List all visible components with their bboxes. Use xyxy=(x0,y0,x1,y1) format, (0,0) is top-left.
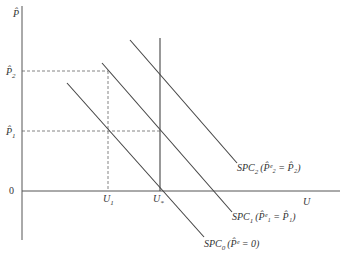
p1-label: P̂1 xyxy=(5,125,16,140)
spc2-curve xyxy=(130,40,237,163)
spc2-label: SPC2(P̂ᵉ₂ = P̂₂) xyxy=(237,161,301,176)
phillips-curve-diagram: P̂ U 0 P̂2 P̂1 U1 U* SPC2(P̂ᵉ₂ = P̂₂) SP… xyxy=(0,0,350,260)
spc1-label: SPC1(P̂ᵉ₁ = P̂₁) xyxy=(232,210,296,225)
spc0-curve xyxy=(67,83,204,237)
x-axis-label: U xyxy=(303,196,311,207)
y-axis-label: P̂ xyxy=(12,7,19,19)
u1-label: U1 xyxy=(103,193,114,207)
ustar-label: U* xyxy=(153,193,164,207)
origin-label: 0 xyxy=(9,185,14,196)
spc1-curve xyxy=(102,63,232,212)
spc0-label: SPC0(P̂ᵉ = 0) xyxy=(204,237,260,252)
p2-label: P̂2 xyxy=(5,65,16,80)
